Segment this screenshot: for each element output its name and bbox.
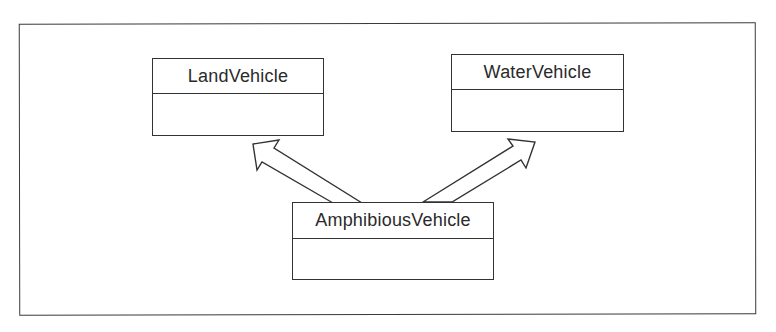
generalization-arrow-land [253,140,362,203]
class-name-land-vehicle: LandVehicle [153,59,323,94]
class-land-vehicle: LandVehicle [152,58,324,136]
inheritance-arrows [0,0,776,332]
class-name-water-vehicle: WaterVehicle [452,55,623,90]
class-amphibious-vehicle: AmphibiousVehicle [292,202,494,280]
class-name-amphibious-vehicle: AmphibiousVehicle [293,203,493,239]
generalization-arrow-water [423,139,535,202]
class-water-vehicle: WaterVehicle [451,54,624,132]
